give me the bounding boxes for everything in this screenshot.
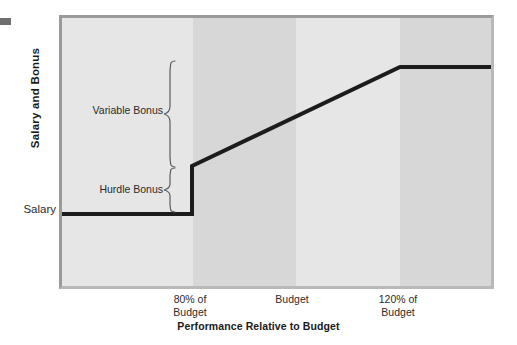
x-tick-label-120-percent: 120% of Budget xyxy=(358,293,438,318)
hurdle-bonus-bracket-icon xyxy=(163,166,181,214)
x-tick-label-80-percent: 80% of Budget xyxy=(150,293,230,318)
corner-registration-mark xyxy=(0,18,11,25)
chart-plot-frame xyxy=(59,15,494,289)
x-tick-line2: Budget xyxy=(358,306,438,319)
x-tick-line1: 80% of xyxy=(150,293,230,306)
chart-plot-area xyxy=(62,18,491,286)
variable-bonus-label: Variable Bonus xyxy=(48,104,163,116)
x-tick-line1: Budget xyxy=(252,293,332,306)
compensation-line-series xyxy=(62,18,491,286)
hurdle-bonus-label: Hurdle Bonus xyxy=(48,183,163,195)
x-tick-line2: Budget xyxy=(150,306,230,319)
x-tick-label-budget: Budget xyxy=(252,293,332,306)
x-tick-line1: 120% of xyxy=(358,293,438,306)
x-axis-title: Performance Relative to Budget xyxy=(0,320,517,332)
y-axis-title: Salary and Bonus xyxy=(29,18,41,178)
y-tick-label-salary: Salary xyxy=(0,203,56,215)
variable-bonus-bracket-icon xyxy=(163,58,181,170)
